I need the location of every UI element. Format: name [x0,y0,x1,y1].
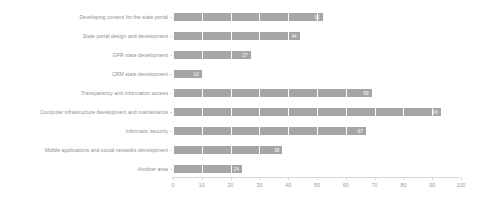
category-label: Another area [0,166,173,173]
x-tick-mark [432,177,433,180]
x-tick-label: 90 [422,182,442,189]
category-label: Informatic security [0,128,173,135]
category-tick [170,150,172,151]
bar-value-label: 24 [234,167,242,172]
x-tick-mark [403,177,404,180]
gridline [346,0,347,177]
category-tick [170,17,172,18]
x-tick-mark [173,177,174,180]
bar-value-label: 38 [274,148,282,153]
gridline [202,0,203,177]
gridline [375,0,376,177]
gridline [231,0,232,177]
bar: 27 [173,51,251,59]
x-tick-label: 0 [163,182,183,189]
category-label: State portal design and development [0,33,173,40]
category-tick [170,112,172,113]
gridline [317,0,318,177]
x-tick-mark [202,177,203,180]
x-tick-label: 50 [307,182,327,189]
bar-row: GPR state development27 [0,46,477,65]
x-tick-mark [231,177,232,180]
bar-value-label: 10 [193,72,201,77]
category-label: Developing content for the state portal [0,14,173,21]
gridline [403,0,404,177]
x-tick-label: 70 [365,182,385,189]
category-tick [170,131,172,132]
bar: 10 [173,70,202,78]
x-tick-mark [288,177,289,180]
x-tick-mark [375,177,376,180]
category-tick [170,93,172,94]
category-label: GPR state development [0,52,173,59]
bar: 24 [173,165,242,173]
bar: 38 [173,146,282,154]
bar-value-label: 69 [363,91,371,96]
gridline [288,0,289,177]
bar-value-label: 52 [314,15,322,20]
x-axis-line [172,177,460,178]
x-tick-mark [461,177,462,180]
category-label: CRM state development [0,71,173,78]
x-tick-label: 80 [393,182,413,189]
category-tick [170,55,172,56]
horizontal-bar-chart: Developing content for the state portal5… [0,0,477,206]
bar: 69 [173,89,372,97]
bar-value-label: 93 [433,110,441,115]
category-tick [170,74,172,75]
x-tick-label: 100 [451,182,471,189]
bar-row: Transparency and information access69 [0,84,477,103]
category-tick [170,169,172,170]
bar-row: Mobile applications and social networks … [0,141,477,160]
x-tick-mark [346,177,347,180]
category-label: Transparency and information access [0,90,173,97]
bar-value-label: 27 [242,53,250,58]
x-tick-label: 60 [336,182,356,189]
category-label: Computer infrastructure development and … [0,109,173,116]
bar-row: Developing content for the state portal5… [0,8,477,27]
bar-value-label: 67 [358,129,366,134]
bar-row: State portal design and development44 [0,27,477,46]
x-tick-mark [259,177,260,180]
bar: 44 [173,32,300,40]
x-tick-label: 30 [249,182,269,189]
x-tick-label: 10 [192,182,212,189]
x-tick-label: 20 [221,182,241,189]
x-tick-mark [317,177,318,180]
bar-row: Informatic security67 [0,122,477,141]
category-label: Mobile applications and social networks … [0,147,173,154]
bar-value-label: 44 [291,34,299,39]
gridline [259,0,260,177]
bar-row: Computer infrastructure development and … [0,103,477,122]
gridline [432,0,433,177]
x-tick-label: 40 [278,182,298,189]
gridline [461,0,462,177]
bar: 93 [173,108,441,116]
bar: 52 [173,13,323,21]
category-tick [170,36,172,37]
gridline [173,0,174,177]
bar-row: CRM state development10 [0,65,477,84]
plot-area: Developing content for the state portal5… [0,0,477,178]
